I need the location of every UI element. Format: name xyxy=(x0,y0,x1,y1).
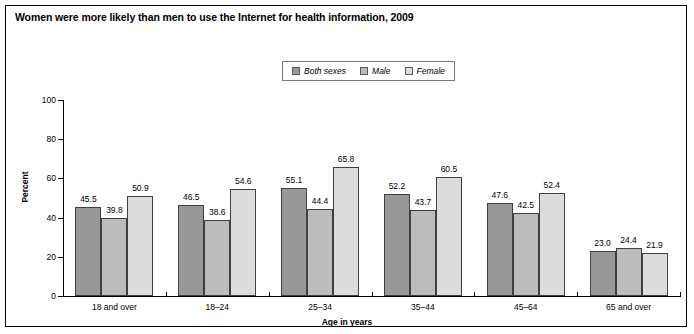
x-tick-label: 18 and over xyxy=(63,302,166,312)
bar-value-label: 45.5 xyxy=(70,195,106,204)
x-tick-label: 35–44 xyxy=(372,302,475,312)
legend-item-both-sexes: Both sexes xyxy=(292,66,346,76)
bar-value-label: 52.2 xyxy=(379,182,415,191)
legend-label-male: Male xyxy=(372,66,390,76)
bar xyxy=(616,248,642,296)
x-tick-mark xyxy=(680,292,681,297)
x-tick-label: 65 and over xyxy=(577,302,680,312)
y-tick-label: 100 xyxy=(16,96,56,105)
chart-legend: Both sexes Male Female xyxy=(282,61,455,81)
x-tick-mark xyxy=(166,292,167,297)
y-tick-label: 0 xyxy=(16,292,56,301)
bar xyxy=(307,209,333,296)
bar xyxy=(333,167,359,296)
bar-value-label: 47.6 xyxy=(482,191,518,200)
bar xyxy=(487,203,513,296)
bar xyxy=(75,207,101,296)
x-tick-mark xyxy=(269,292,270,297)
y-tick-mark xyxy=(58,218,63,219)
legend-label-both-sexes: Both sexes xyxy=(304,66,346,76)
bar xyxy=(642,253,668,296)
bar-value-label: 55.1 xyxy=(276,176,312,185)
x-tick-mark xyxy=(474,292,475,297)
bar-value-label: 21.9 xyxy=(637,241,673,250)
bar-value-label: 50.9 xyxy=(122,184,158,193)
x-tick-label: 18–24 xyxy=(166,302,269,312)
legend-label-female: Female xyxy=(417,66,445,76)
y-axis-line xyxy=(63,100,64,297)
bar-value-label: 52.4 xyxy=(534,181,570,190)
y-tick-mark xyxy=(58,139,63,140)
x-tick-label: 45–64 xyxy=(474,302,577,312)
bar xyxy=(590,251,616,296)
bar xyxy=(230,189,256,296)
bar xyxy=(436,177,462,296)
legend-swatch-female xyxy=(405,67,413,75)
bar xyxy=(513,213,539,296)
chart-title: Women were more likely than men to use t… xyxy=(15,11,413,23)
bar xyxy=(410,210,436,296)
legend-item-female: Female xyxy=(405,66,445,76)
y-tick-label: 80 xyxy=(16,135,56,144)
x-tick-mark xyxy=(577,292,578,297)
bar xyxy=(539,193,565,296)
bar-value-label: 54.6 xyxy=(225,177,261,186)
chart-figure: Women were more likely than men to use t… xyxy=(0,0,694,334)
y-axis-label: Percent xyxy=(20,157,30,217)
y-tick-mark xyxy=(58,257,63,258)
bar xyxy=(127,196,153,296)
bar xyxy=(204,220,230,296)
bar xyxy=(178,205,204,296)
y-tick-mark xyxy=(58,178,63,179)
x-axis-label: Age in years xyxy=(0,317,694,327)
bar-value-label: 60.5 xyxy=(431,165,467,174)
bar-value-label: 65.8 xyxy=(328,155,364,164)
y-tick-mark xyxy=(58,296,63,297)
legend-item-male: Male xyxy=(360,66,390,76)
bar xyxy=(101,218,127,296)
y-tick-mark xyxy=(58,100,63,101)
x-tick-mark xyxy=(372,292,373,297)
legend-swatch-both-sexes xyxy=(292,67,300,75)
bar-value-label: 46.5 xyxy=(173,193,209,202)
y-tick-label: 20 xyxy=(16,253,56,262)
legend-swatch-male xyxy=(360,67,368,75)
y-axis-tick-labels: 020406080100 xyxy=(12,0,56,334)
bar xyxy=(384,194,410,296)
x-tick-label: 25–34 xyxy=(269,302,372,312)
